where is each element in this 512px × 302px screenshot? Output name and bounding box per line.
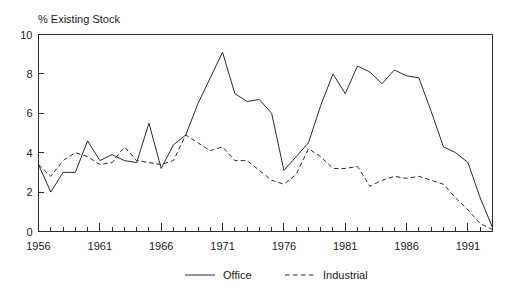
- plot-border: [39, 35, 493, 232]
- chart-title-group: % Existing Stock: [38, 13, 120, 25]
- y-tick-label: 0: [26, 226, 32, 238]
- chart-container: % Existing Stock 0246810 195619611966197…: [0, 0, 512, 302]
- legend-label-office: Office: [223, 269, 252, 281]
- y-tick-label: 2: [26, 186, 32, 198]
- x-tick-label: 1956: [26, 240, 50, 252]
- chart-title: % Existing Stock: [38, 13, 120, 25]
- x-tick-label: 1986: [394, 240, 418, 252]
- y-tick-label: 6: [26, 107, 32, 119]
- x-tick-label: 1991: [456, 240, 480, 252]
- y-tick-label: 4: [26, 147, 32, 159]
- line-chart: % Existing Stock 0246810 195619611966197…: [0, 0, 512, 302]
- legend-label-industrial: Industrial: [323, 269, 368, 281]
- x-tick-label: 1976: [272, 240, 296, 252]
- x-tick-label: 1961: [88, 240, 112, 252]
- x-axis: 19561961196619711976198119861991: [26, 223, 492, 252]
- y-axis: 0246810: [20, 29, 43, 238]
- y-tick-label: 8: [26, 68, 32, 80]
- x-tick-label: 1971: [210, 240, 234, 252]
- y-tick-label: 10: [20, 29, 32, 41]
- chart-legend: OfficeIndustrial: [185, 269, 368, 281]
- series-layer: [39, 52, 493, 229]
- series-line-industrial: [39, 135, 493, 230]
- x-tick-label: 1966: [149, 240, 173, 252]
- plot-frame: [39, 35, 493, 232]
- x-tick-label: 1981: [333, 240, 357, 252]
- series-line-office: [39, 52, 493, 227]
